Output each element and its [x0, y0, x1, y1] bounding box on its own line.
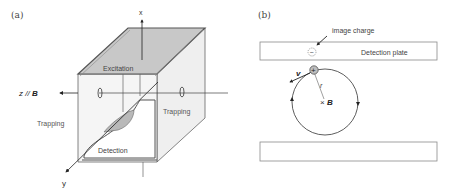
top-detection-plate — [260, 42, 437, 60]
image-charge-label: image charge — [332, 27, 375, 35]
radius-label: r — [320, 82, 323, 89]
panel-b: (b) Detection plate − image charge r × B… — [258, 10, 437, 161]
detection-label: Detection — [98, 147, 128, 154]
field-label: B — [327, 98, 333, 107]
excitation-label: Excitation — [103, 65, 133, 72]
detection-plate-label: Detection plate — [361, 49, 408, 57]
radius-line — [314, 72, 324, 99]
panel-a: (a) y z // B x Excitation Trapping — [11, 9, 228, 188]
figure: (a) y z // B x Excitation Trapping — [0, 0, 456, 189]
z-axis-label: z // B — [18, 89, 38, 98]
x-axis-label: x — [139, 9, 143, 16]
image-charge-sign: − — [310, 49, 314, 56]
panel-a-label: (a) — [11, 10, 23, 20]
right-trapping-label: Trapping — [163, 108, 190, 116]
velocity-label: v — [296, 69, 301, 78]
field-cross-icon: × — [320, 98, 325, 107]
left-trapping-label: Trapping — [37, 120, 64, 128]
bottom-detection-plate — [260, 142, 437, 161]
panel-b-label: (b) — [258, 10, 271, 20]
y-axis-label: y — [62, 179, 66, 188]
ion-sign: + — [311, 66, 316, 75]
orbit-arrow-up-icon — [290, 97, 294, 101]
orbit-arrow-down-icon — [356, 102, 360, 106]
cyclotron-orbit — [292, 69, 358, 135]
